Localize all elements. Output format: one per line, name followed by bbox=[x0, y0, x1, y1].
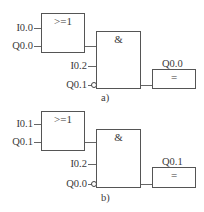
output-block: = bbox=[152, 167, 196, 188]
or-input-1-label: I0.0 bbox=[16, 22, 33, 33]
diagram-caption: b) bbox=[101, 192, 110, 203]
and-block-label: & bbox=[97, 33, 140, 45]
and-block-label: & bbox=[97, 131, 140, 143]
or-input-1-label: I0.1 bbox=[16, 118, 33, 129]
and-input-1-label: I0.2 bbox=[70, 158, 87, 169]
output-block-label: = bbox=[153, 169, 195, 181]
and-to-output-wire bbox=[141, 85, 152, 86]
output-block-label: = bbox=[153, 71, 195, 83]
or-input-2-label: Q0.1 bbox=[12, 136, 33, 147]
and-block: & bbox=[96, 129, 141, 188]
or-input-2-wire bbox=[34, 142, 41, 143]
output-label: Q0.1 bbox=[162, 156, 183, 167]
output-label: Q0.0 bbox=[162, 58, 183, 69]
or-block-label: >=1 bbox=[42, 15, 84, 27]
and-input-1-wire bbox=[88, 66, 96, 67]
negation-circle-icon bbox=[91, 181, 97, 187]
ladder-diagram-a: >=1 I0.0 Q0.0 & I0.2 Q0.1 Q0.0 = a) bbox=[0, 0, 204, 106]
or-block-label: >=1 bbox=[42, 113, 84, 125]
or-block: >=1 bbox=[41, 111, 85, 151]
and-input-2-label: Q0.1 bbox=[66, 79, 87, 90]
diagram-caption: a) bbox=[101, 92, 109, 103]
or-input-2-wire bbox=[34, 46, 41, 47]
output-block: = bbox=[152, 69, 196, 89]
and-input-1-label: I0.2 bbox=[70, 60, 87, 71]
and-to-output-wire bbox=[141, 184, 152, 185]
negation-circle-icon bbox=[91, 82, 97, 88]
ladder-diagram-b: >=1 I0.1 Q0.1 & I0.2 Q0.0 Q0.1 = b) bbox=[0, 106, 204, 212]
and-input-2-label: Q0.0 bbox=[66, 178, 87, 189]
or-to-and-wire bbox=[85, 46, 96, 47]
or-block: >=1 bbox=[41, 13, 85, 53]
or-input-2-label: Q0.0 bbox=[12, 40, 33, 51]
or-input-1-wire bbox=[34, 28, 41, 29]
or-to-and-wire bbox=[85, 142, 96, 143]
and-block: & bbox=[96, 31, 141, 89]
or-input-1-wire bbox=[34, 124, 41, 125]
and-input-1-wire bbox=[88, 164, 96, 165]
